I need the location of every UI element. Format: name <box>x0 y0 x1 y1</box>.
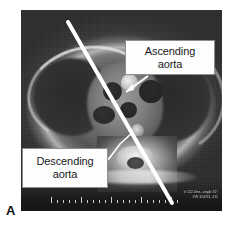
scale-ruler-tick <box>87 200 88 203</box>
scale-ruler-tick <box>153 200 154 203</box>
scale-ruler <box>51 195 177 203</box>
figure-panel: tr 122.0ms, angle 32° VW 324/93, 411 Asc… <box>0 0 230 227</box>
vessel-dark-3 <box>93 106 115 124</box>
panel-letter: A <box>6 203 15 218</box>
scale-ruler-tick <box>159 200 160 203</box>
scale-ruler-tick <box>123 200 124 203</box>
scanner-overlay-line-2: VW 324/93, 411 <box>184 195 218 199</box>
scale-ruler-tick <box>75 200 76 203</box>
callout-ascending-aorta-text: Ascending aorta <box>143 45 197 71</box>
scanner-overlay-text: tr 122.0ms, angle 32° VW 324/93, 411 <box>184 190 218 199</box>
ascending-aorta-structure <box>121 74 138 91</box>
scale-ruler-tick <box>81 197 82 203</box>
callout-ascending-aorta-line-1: Ascending <box>145 45 195 58</box>
callout-ascending-aorta[interactable]: Ascending aorta <box>125 40 215 75</box>
callout-descending-aorta-text: Descending aorta <box>34 155 95 181</box>
callout-descending-aorta-line-1: Descending <box>36 155 93 168</box>
scale-ruler-tick <box>51 197 52 203</box>
vessel-dark-1 <box>103 82 122 101</box>
callout-ascending-aorta-line-2: aorta <box>145 58 195 71</box>
scale-ruler-tick <box>69 200 70 203</box>
scale-ruler-tick <box>177 200 178 203</box>
callout-descending-aorta[interactable]: Descending aorta <box>22 148 108 188</box>
scale-ruler-tick <box>93 200 94 203</box>
scale-ruler-tick <box>141 197 142 203</box>
scale-ruler-tick <box>111 197 112 203</box>
scale-ruler-tick <box>57 200 58 203</box>
scale-ruler-tick <box>165 200 166 203</box>
vessel-dark-2 <box>139 80 163 103</box>
scale-ruler-tick <box>147 200 148 203</box>
scale-ruler-tick <box>129 200 130 203</box>
spinal-canal <box>127 157 144 169</box>
scanner-overlay-line-1: tr 122.0ms, angle 32° <box>184 190 218 194</box>
scale-ruler-tick <box>99 200 100 203</box>
scale-ruler-tick <box>117 200 118 203</box>
scale-ruler-tick <box>105 200 106 203</box>
scale-ruler-tick <box>171 197 172 203</box>
scale-ruler-tick <box>63 200 64 203</box>
vessel-dark-4 <box>120 102 137 118</box>
callout-descending-aorta-line-2: aorta <box>36 168 93 181</box>
scale-ruler-tick <box>135 200 136 203</box>
